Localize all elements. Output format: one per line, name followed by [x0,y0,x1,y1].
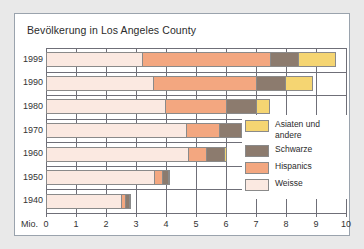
y-tick-label-1940: 1940 [23,195,43,205]
bar-segment-1980-hispanics[interactable] [165,99,227,114]
y-tick-label-1960: 1960 [23,148,43,158]
x-tick-label-3: 3 [133,219,138,229]
bar-segment-1940-weisse[interactable] [46,194,121,209]
bar-segment-1960-schwarze[interactable] [206,147,224,162]
x-tick-2 [106,213,107,217]
bar-segment-1970-weisse[interactable] [46,123,186,138]
bar-1970[interactable] [46,123,245,138]
x-tick-label-10: 10 [341,219,351,229]
legend-item-hispanics[interactable]: Hispanics [245,161,345,174]
bar-1960[interactable] [46,147,227,162]
y-axis-labels: 1999199019801970196019501940 [15,48,43,213]
bar-segment-1950-hispanics[interactable] [154,170,162,185]
bar-segment-1999-hispanics[interactable] [142,52,270,67]
bar-1990[interactable] [46,76,313,91]
x-tick-label-0: 0 [43,219,48,229]
bar-segment-1980-schwarze[interactable] [226,99,256,114]
y-tick-label-1999: 1999 [23,54,43,64]
x-tick-3 [136,213,137,217]
x-tick-8 [286,213,287,217]
x-tick-6 [226,213,227,217]
y-tick-label-1980: 1980 [23,101,43,111]
bar-segment-1980-weisse[interactable] [46,99,165,114]
x-tick-0 [46,213,47,217]
legend-swatch [245,145,269,157]
chart-legend: Asiaten und andereSchwarzeHispanicsWeiss… [242,115,348,199]
legend-swatch [245,179,269,191]
bar-segment-1990-weisse[interactable] [46,76,153,91]
bar-1950[interactable] [46,170,170,185]
bar-segment-1999-asiaten-und-andere[interactable] [298,52,336,67]
chart-title: Bevölkerung in Los Angeles County [27,24,196,36]
bar-segment-1990-asiaten-und-andere[interactable] [285,76,314,91]
x-tick-label-5: 5 [193,219,198,229]
x-tick-label-8: 8 [283,219,288,229]
y-tick-label-1990: 1990 [23,77,43,87]
bar-segment-1990-hispanics[interactable] [153,76,257,91]
bar-segment-1960-asiaten-und-andere[interactable] [224,147,227,162]
bar-1940[interactable] [46,194,131,209]
legend-label: Weisse [275,178,303,189]
row-separator [46,48,346,49]
y-tick-label-1950: 1950 [23,172,43,182]
bar-segment-1980-asiaten-und-andere[interactable] [256,99,270,114]
legend-label: Hispanics [275,161,312,172]
legend-item-schwarze[interactable]: Schwarze [245,144,345,157]
bar-segment-1960-hispanics[interactable] [188,147,207,162]
bar-segment-1950-schwarze[interactable] [162,170,169,185]
x-tick-label-7: 7 [253,219,258,229]
legend-label: Schwarze [275,144,312,155]
x-tick-1 [76,213,77,217]
legend-swatch [245,162,269,174]
chart-figure: Bevölkerung in Los Angeles County 199919… [14,13,350,236]
bar-segment-1999-schwarze[interactable] [270,52,299,67]
row-separator [46,95,346,96]
bar-segment-1990-schwarze[interactable] [256,76,285,91]
x-tick-10 [346,213,347,217]
y-tick-label-1970: 1970 [23,125,43,135]
bar-segment-1940-asiaten-und-andere[interactable] [129,194,131,209]
x-tick-label-1: 1 [73,219,78,229]
x-tick-label-9: 9 [313,219,318,229]
legend-item-asiaten-und-andere[interactable]: Asiaten und andere [245,119,345,140]
x-tick-5 [196,213,197,217]
x-tick-9 [316,213,317,217]
bar-1999[interactable] [46,52,336,67]
bar-segment-1950-weisse[interactable] [46,170,154,185]
x-tick-label-6: 6 [223,219,228,229]
x-tick-label-2: 2 [103,219,108,229]
legend-item-weisse[interactable]: Weisse [245,178,345,191]
bar-segment-1970-schwarze[interactable] [219,123,242,138]
bar-segment-1999-weisse[interactable] [46,52,142,67]
bar-segment-1970-hispanics[interactable] [186,123,219,138]
x-tick-4 [166,213,167,217]
legend-swatch [245,120,269,132]
x-axis-unit-label: Mio. [21,219,38,229]
x-tick-label-4: 4 [163,219,168,229]
bar-segment-1960-weisse[interactable] [46,147,188,162]
x-tick-7 [256,213,257,217]
legend-label: Asiaten und andere [275,119,345,140]
row-separator [46,72,346,73]
bar-1980[interactable] [46,99,270,114]
bar-segment-1950-asiaten-und-andere[interactable] [168,170,170,185]
